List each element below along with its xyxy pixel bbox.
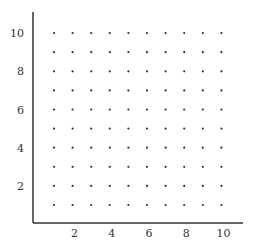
- data-point: [220, 185, 222, 187]
- data-point: [127, 108, 129, 110]
- data-point: [90, 204, 92, 206]
- data-point: [202, 128, 204, 130]
- data-point: [165, 70, 167, 72]
- data-point: [109, 70, 111, 72]
- data-point: [90, 51, 92, 53]
- data-point: [109, 128, 111, 130]
- data-point: [72, 108, 74, 110]
- data-point: [90, 128, 92, 130]
- data-point: [146, 108, 148, 110]
- data-point: [90, 147, 92, 149]
- data-point: [90, 166, 92, 168]
- x-tick-label: 6: [146, 227, 153, 240]
- data-point: [202, 32, 204, 34]
- data-point: [220, 32, 222, 34]
- data-point: [72, 128, 74, 130]
- y-tick-label: 6: [17, 104, 24, 117]
- data-point: [90, 108, 92, 110]
- data-point: [109, 51, 111, 53]
- data-point: [220, 108, 222, 110]
- data-point: [53, 70, 55, 72]
- data-point: [109, 89, 111, 91]
- y-tick-labels: 246810: [10, 27, 24, 193]
- data-point: [183, 166, 185, 168]
- y-tick-label: 8: [17, 65, 24, 78]
- data-point: [127, 128, 129, 130]
- data-point: [183, 185, 185, 187]
- data-point: [146, 166, 148, 168]
- data-point: [165, 166, 167, 168]
- data-point: [53, 166, 55, 168]
- data-point: [127, 89, 129, 91]
- data-point: [72, 147, 74, 149]
- data-point: [183, 89, 185, 91]
- data-point: [202, 185, 204, 187]
- data-point: [53, 89, 55, 91]
- data-point: [220, 89, 222, 91]
- data-point: [165, 108, 167, 110]
- data-point: [53, 128, 55, 130]
- data-point: [146, 185, 148, 187]
- data-point: [109, 204, 111, 206]
- data-point: [146, 147, 148, 149]
- data-point: [146, 32, 148, 34]
- x-tick-label: 2: [71, 227, 78, 240]
- data-point: [165, 204, 167, 206]
- data-point: [72, 204, 74, 206]
- data-point: [183, 32, 185, 34]
- data-point: [53, 108, 55, 110]
- data-point: [109, 32, 111, 34]
- data-point: [183, 128, 185, 130]
- data-point: [72, 166, 74, 168]
- data-point: [53, 32, 55, 34]
- data-point: [202, 147, 204, 149]
- data-point: [220, 147, 222, 149]
- data-point: [220, 128, 222, 130]
- data-point: [220, 166, 222, 168]
- data-point: [202, 108, 204, 110]
- data-point: [72, 89, 74, 91]
- data-point: [109, 108, 111, 110]
- data-point: [72, 70, 74, 72]
- y-tick-label: 4: [17, 142, 24, 155]
- data-point: [202, 51, 204, 53]
- data-point: [90, 89, 92, 91]
- data-point: [72, 32, 74, 34]
- data-point: [127, 166, 129, 168]
- data-point: [202, 204, 204, 206]
- data-point: [146, 70, 148, 72]
- data-point: [109, 185, 111, 187]
- data-point: [127, 32, 129, 34]
- data-point: [146, 204, 148, 206]
- data-point: [183, 51, 185, 53]
- data-point: [202, 70, 204, 72]
- data-point: [165, 89, 167, 91]
- data-point: [202, 89, 204, 91]
- data-point: [220, 51, 222, 53]
- data-point: [53, 147, 55, 149]
- data-point: [90, 32, 92, 34]
- data-point: [183, 108, 185, 110]
- data-point: [72, 185, 74, 187]
- data-point: [220, 204, 222, 206]
- data-point: [220, 70, 222, 72]
- data-point: [72, 51, 74, 53]
- data-point: [127, 204, 129, 206]
- dot-lattice-chart: 246810 246810: [0, 0, 256, 250]
- x-tick-labels: 246810: [71, 227, 230, 240]
- data-point: [165, 128, 167, 130]
- x-tick-label: 4: [108, 227, 115, 240]
- data-point: [109, 166, 111, 168]
- data-point: [109, 147, 111, 149]
- data-point: [183, 204, 185, 206]
- data-point: [183, 147, 185, 149]
- data-point: [165, 32, 167, 34]
- data-point: [127, 147, 129, 149]
- x-tick-label: 8: [183, 227, 190, 240]
- data-point: [53, 185, 55, 187]
- data-point: [127, 70, 129, 72]
- y-tick-label: 2: [17, 180, 24, 193]
- data-point: [202, 166, 204, 168]
- data-points: [53, 32, 223, 206]
- data-point: [90, 185, 92, 187]
